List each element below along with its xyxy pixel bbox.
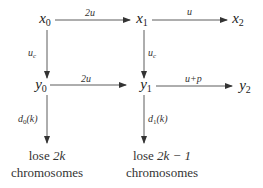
node-y1: y1 [140, 77, 152, 96]
node-y2: y2 [239, 78, 251, 97]
outcome-left: lose 2k chromosomes [11, 147, 83, 181]
edge-label-x1-x2: u [187, 7, 192, 17]
edge-label-x0-y0: uc [28, 48, 36, 61]
outcome-right-line1: lose 2k − 1 [126, 147, 198, 164]
outcome-right: lose 2k − 1 chromosomes [126, 147, 198, 181]
node-x1: x1 [136, 11, 148, 30]
node-x2: x2 [232, 11, 244, 30]
edge-label-y0-outcome: d0(k) [18, 114, 38, 127]
outcome-left-line1: lose 2k [11, 147, 83, 164]
state-transition-diagram: x0 x1 x2 y0 y1 y2 2u u 2u u+p uc uc d0(k… [0, 0, 263, 188]
edge-label-y1-outcome: d1(k) [148, 114, 168, 127]
edge-label-x0-x1: 2u [85, 8, 95, 18]
node-x0: x0 [39, 11, 51, 30]
node-y0: y0 [35, 77, 47, 96]
edge-label-y1-y2: u+p [185, 74, 202, 84]
edge-label-y0-y1: 2u [81, 74, 91, 84]
outcome-right-line2: chromosomes [126, 164, 198, 181]
edge-label-x1-y1: uc [148, 48, 156, 61]
outcome-left-line2: chromosomes [11, 164, 83, 181]
